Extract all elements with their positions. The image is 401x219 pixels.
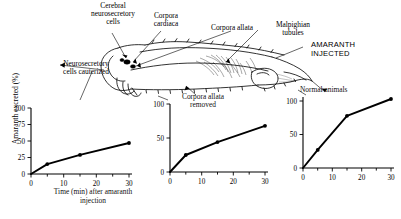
plot-3-ytick-0: 0 xyxy=(293,165,297,173)
plot-1-xtick-10: 10 xyxy=(60,180,68,188)
scientific-figure: Cerebral neurosecretory cells Corpora ca… xyxy=(0,0,401,219)
plot-2-ytick-50: 50 xyxy=(157,135,165,143)
plot-3: 0 50 100 0 10 20 30 xyxy=(286,97,395,182)
plots-layer: 0 25 50 75 100 0 10 20 30 xyxy=(0,0,401,219)
plot-3-xtick-10: 10 xyxy=(329,174,337,182)
plot-1-xtick-20: 20 xyxy=(93,180,101,188)
plot-3-xtick-30: 30 xyxy=(387,174,395,182)
plot-1: 0 25 50 75 100 0 10 20 30 xyxy=(14,105,133,188)
plot-3-ytick-100: 100 xyxy=(286,98,297,106)
plot-1-ytick-50: 50 xyxy=(18,138,26,146)
plot-3-xtick-0: 0 xyxy=(301,174,305,182)
plot-2-xtick-20: 20 xyxy=(230,178,238,186)
plot-2: 0 50 100 0 10 20 30 xyxy=(153,101,269,186)
plot-3-xtick-20: 20 xyxy=(358,174,366,182)
plot-2-ytick-0: 0 xyxy=(160,169,164,177)
plot-1-ytick-25: 25 xyxy=(18,154,26,162)
plot-2-xtick-10: 10 xyxy=(198,178,206,186)
plot-1-xtick-30: 30 xyxy=(125,180,133,188)
plot-1-xtick-0: 0 xyxy=(29,180,33,188)
plot-2-xtick-30: 30 xyxy=(261,178,269,186)
plot-1-ytick-75: 75 xyxy=(18,121,26,129)
plot-2-ytick-100: 100 xyxy=(153,101,164,109)
plot-1-ytick-100: 100 xyxy=(14,105,25,113)
plot-3-ytick-50: 50 xyxy=(290,131,298,139)
plot-2-xtick-0: 0 xyxy=(168,178,172,186)
plot-1-ytick-0: 0 xyxy=(21,171,25,179)
plot-3-points xyxy=(316,97,393,152)
